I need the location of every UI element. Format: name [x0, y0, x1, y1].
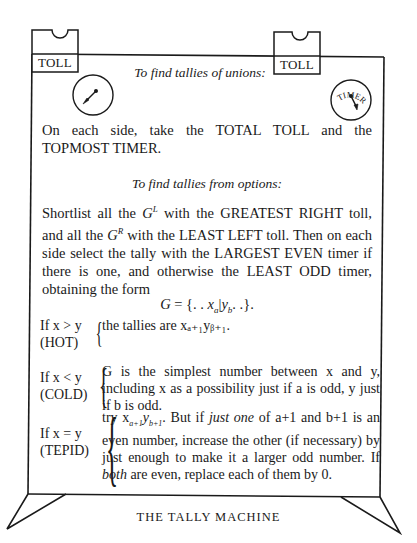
g-left-symbol: G [142, 205, 152, 221]
case-condition: If x = y [40, 425, 96, 442]
tepid-emphasis: both [102, 467, 127, 482]
unions-text: On each side, take the TOTAL TOLL and th… [42, 121, 372, 157]
case-name: (HOT) [40, 334, 96, 351]
case-hot-body: the tallies are xₐ₊₁yᵦ₊₁. [102, 317, 380, 334]
options-heading: To find tallies from options: [42, 176, 372, 192]
tepid-text: . But if [162, 410, 209, 425]
case-condition: If x > y [40, 317, 96, 334]
formula-g: G [160, 296, 170, 312]
board-right-edge [380, 57, 384, 497]
case-hot: If x > y (HOT) { the tallies are xₐ₊₁yᵦ₊… [40, 317, 380, 353]
tepid-sub: a+1 [129, 419, 142, 428]
board-left-edge [28, 54, 32, 494]
case-tepid-condition: If x = y (TEPID) [40, 425, 96, 459]
toll-label-right: TOLL [275, 57, 319, 73]
case-name: (COLD) [40, 386, 96, 403]
case-tepid-body: try xa+1yb+1. But if just one of a+1 and… [102, 409, 380, 483]
tepid-text: are even, replace each of them by 0. [127, 467, 332, 482]
options-text: Shortlist all the GL with the GREATEST R… [42, 200, 372, 298]
case-cold: If x < y (COLD) { G is the simplest numb… [40, 363, 380, 415]
tepid-emphasis: just one [209, 410, 254, 425]
timer-label-left: TIMER [0, 0, 4, 2]
case-hot-condition: If x > y (HOT) [40, 317, 96, 351]
options-text-part: Shortlist all the [42, 205, 142, 221]
unions-heading: To find tallies of unions: [120, 65, 280, 81]
formula: G = {. . xa|yb. .}. [42, 296, 372, 315]
tepid-sub: b+1 [149, 419, 162, 428]
case-tepid: If x = y (TEPID) { try xa+1yb+1. But if … [40, 409, 380, 495]
g-right-symbol: G [107, 227, 117, 243]
diagram-caption: THE TALLY MACHINE [0, 510, 417, 525]
case-cold-body: G is the simplest number between x and y… [102, 363, 380, 414]
case-condition: If x < y [40, 369, 96, 386]
timer-label-right: TIMER [335, 89, 369, 105]
toll-label-left: TOLL [33, 55, 77, 71]
formula-tail: . .}. [232, 296, 253, 312]
formula-eq: = {. . [171, 296, 208, 312]
case-cold-condition: If x < y (COLD) [40, 369, 96, 403]
board-top-edge [32, 54, 384, 57]
case-name: (TEPID) [40, 442, 96, 459]
tepid-text: try x [102, 410, 129, 425]
timer-dial-left [73, 75, 113, 115]
